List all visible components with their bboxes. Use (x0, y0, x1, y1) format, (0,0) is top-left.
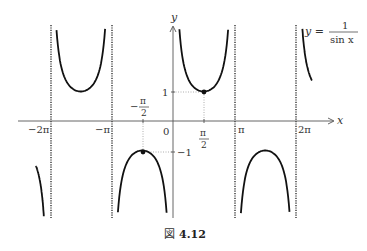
x-axis-label: x (337, 114, 344, 127)
csc-curves (36, 29, 312, 216)
tick-label-neg-half-pi-den: 2 (141, 108, 147, 118)
point-min-half-pi (202, 90, 207, 95)
tick-label-neg-half-pi-num: π (140, 96, 146, 106)
curve-branch-4 (241, 151, 290, 214)
tick-label-half-pi-num: π (200, 128, 206, 138)
equation-lhs: y = (304, 25, 324, 38)
origin-label: 0 (163, 126, 169, 137)
tick-label-half-pi-den: 2 (201, 140, 207, 150)
tick-label-two-pi: 2π (298, 124, 311, 135)
curve-branch-2 (118, 151, 167, 213)
point-max-neg-half-pi (141, 150, 146, 155)
tick-label-pi: π (238, 124, 245, 135)
tick-label-neg-half-pi-minus: − (130, 101, 138, 112)
curve-branch-3 (179, 29, 228, 91)
curve-branch-0 (36, 166, 44, 216)
curve-branch-1 (57, 29, 106, 92)
figure-caption-number: 4.12 (179, 228, 206, 241)
ticks (143, 92, 204, 152)
asymptotes (51, 25, 296, 218)
chart-canvas: y x 0 −2π −π π 2π 1 −1 π 2 − π 2 y = 1 s… (0, 0, 367, 251)
tick-label-neg-pi: −π (95, 124, 110, 135)
guide-lines (143, 92, 204, 152)
figure-caption-prefix: 図 (164, 228, 175, 241)
tick-label-neg-two-pi: −2π (28, 124, 50, 135)
y-axis-label: y (170, 11, 178, 24)
tick-label-one: 1 (162, 87, 168, 98)
equation-numerator: 1 (342, 20, 348, 31)
equation-denominator: sin x (330, 34, 354, 45)
tick-label-neg-one: −1 (177, 147, 192, 158)
